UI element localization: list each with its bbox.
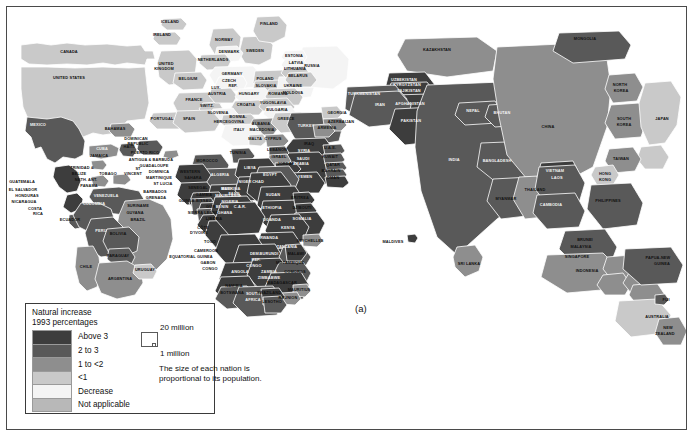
- country-label: LESOTHO: [262, 299, 282, 304]
- country-label: SRI LANKA: [458, 261, 480, 266]
- country-label: GRENADA: [146, 195, 167, 200]
- country-label: PHILIPPINES: [595, 198, 621, 203]
- country-label: GUINEA-BISSAU: [179, 198, 212, 203]
- country-label: SWITZ.: [200, 103, 214, 108]
- country-label: TURKEY: [298, 123, 315, 128]
- country-label: ERITREA: [291, 195, 309, 200]
- country-label: NEW: [663, 325, 673, 330]
- map-legend: Natural increase 1993 percentages Above …: [25, 303, 215, 414]
- country-label: TANZANIA: [277, 244, 298, 249]
- legend-class-label: <1: [78, 373, 87, 382]
- legend-row: [32, 398, 72, 412]
- country-label: ETHIOPIA: [262, 205, 281, 210]
- country-label: POLAND: [256, 76, 273, 81]
- country-label: SWAZILAND: [257, 290, 281, 295]
- country-label: INDIA: [448, 157, 459, 162]
- country-label: HONG: [599, 171, 611, 176]
- country-label: GUATEMALA: [9, 179, 35, 184]
- country-label: JAPAN: [655, 116, 669, 121]
- country-label: CROATIA: [237, 102, 255, 107]
- country-label: INDONESIA: [576, 268, 599, 273]
- country-label: SLOVENIA: [208, 110, 229, 115]
- country-label: BRAZIL: [131, 217, 146, 222]
- legend-swatch: [32, 344, 72, 358]
- country-label: FRANCE: [186, 97, 203, 102]
- country-label: GEORGIA: [327, 110, 346, 115]
- country-label: NETHERLANDS: [198, 57, 229, 62]
- country-label: SPAIN: [183, 116, 195, 121]
- country-label: FIJI: [662, 297, 669, 302]
- country-label: FINLAND: [260, 21, 278, 26]
- country-label: MADAGASCAR: [267, 280, 297, 285]
- country-label: BENIN: [216, 204, 229, 209]
- country-label: NETH. ANT.: [75, 177, 97, 182]
- country-label: EL SALVADOR: [9, 187, 38, 192]
- country-label: SOUTH: [617, 116, 631, 121]
- country-label: SINGAPORE: [565, 254, 590, 259]
- country-label: TOBAGO: [99, 171, 117, 176]
- country-label: GREECE: [277, 116, 294, 121]
- country-label: KAZAKHSTAN: [423, 47, 451, 52]
- country-label: NORTH: [613, 82, 628, 87]
- country-label: MARTINIQUE: [146, 175, 172, 180]
- country-label: BRUNEI: [577, 237, 593, 242]
- country-label: VENEZUELA: [94, 193, 119, 198]
- legend-row: [32, 371, 72, 385]
- country-label: SAHARA: [184, 175, 201, 180]
- country-label: KOREA: [617, 122, 632, 127]
- country-label: BOLIVIA: [110, 231, 127, 236]
- country-label: CHINA: [542, 124, 555, 129]
- country-label: NORWAY: [215, 37, 233, 42]
- country-label: PAKISTAN: [401, 118, 421, 123]
- legend-class-label: 2 to 3: [78, 346, 99, 355]
- country-label: TURKMENISTAN: [348, 91, 380, 96]
- country-label: MALAWI: [288, 251, 305, 256]
- legend-class-label: 1 to <2: [78, 360, 103, 369]
- country-label: OMAN: [327, 175, 339, 180]
- country-label: QATAR: [326, 162, 340, 167]
- country-label: C.A.R.: [234, 204, 246, 209]
- country-label: NIGER: [239, 179, 252, 184]
- country-label: LEBANON: [267, 147, 287, 152]
- country-label: SUDAN: [266, 192, 281, 197]
- country-label: YEMEN: [298, 174, 313, 179]
- country-label: ARGENTINA: [108, 276, 132, 281]
- country-label: PORTUGAL: [151, 116, 174, 121]
- country-label: CHAD: [252, 179, 264, 184]
- country-label: KONG: [599, 177, 611, 182]
- country-label: FASO: [228, 191, 239, 196]
- country-label: D'IVOIRE: [190, 230, 208, 235]
- country-label: PERU: [95, 228, 106, 233]
- country-label: BAHRAIN: [322, 168, 341, 173]
- country-label: MACEDONIA: [249, 127, 274, 132]
- country-label: KINGDOM: [154, 66, 174, 71]
- country-label: GUYANA: [126, 210, 143, 215]
- country-label: AFRICA: [245, 297, 260, 302]
- country-label: UKRAINE: [284, 83, 303, 88]
- country-label: YUGOSLAVIA: [260, 100, 287, 105]
- legend-swatch: [32, 371, 72, 385]
- country-label: RWANDA: [260, 235, 278, 240]
- country-label: LATVIA: [289, 60, 304, 65]
- country-label: AZERBAIJAN: [328, 119, 354, 124]
- country-label: ISRAEL: [272, 154, 287, 159]
- country-label: JAMAICA: [90, 153, 109, 158]
- legend-swatch: [32, 398, 72, 412]
- country-label: CONGO: [202, 266, 217, 271]
- country-label: EQUATORIAL GUINEA: [169, 254, 213, 259]
- country-shapes: [21, 16, 686, 345]
- country-label: CAMBODIA: [540, 202, 562, 207]
- country-label: LUX.: [211, 85, 220, 90]
- country-label: COLOMBIA: [83, 201, 105, 206]
- country-label: COMOROS: [284, 269, 306, 274]
- country-label: BOTSWANA: [220, 290, 244, 295]
- cartogram-figure: CANADAUNITED STATESMEXICOBAHAMASCUBAHAIT…: [0, 0, 694, 437]
- country-label: SURINAME: [127, 203, 149, 208]
- country-label: MOZAMBIQUE: [276, 260, 305, 265]
- country-label: ARABIA: [293, 161, 309, 166]
- country-label: CHILE: [80, 264, 93, 269]
- country-label: MALAYSIA: [571, 244, 592, 249]
- country-label: BELARUS: [288, 73, 308, 78]
- country-label: MAURITIUS: [288, 287, 311, 292]
- country-label: ALGERIA: [211, 172, 229, 177]
